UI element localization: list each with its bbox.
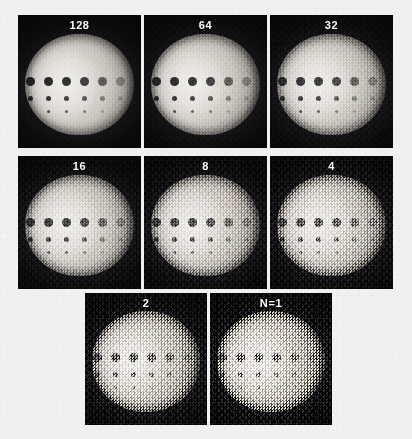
panel-label: 8	[144, 160, 267, 172]
lesion-spot	[280, 96, 285, 101]
lesion-row-small	[29, 110, 122, 113]
lesion-spot	[310, 372, 315, 377]
lesion-spot	[206, 77, 215, 86]
lesion-spot	[82, 96, 87, 101]
lesion-spot	[350, 77, 359, 86]
lesion-spot	[114, 386, 117, 389]
lesion-spot	[83, 110, 86, 113]
lesion-row-small	[155, 251, 248, 254]
lesion-spot	[368, 77, 377, 86]
lesion-spot	[242, 218, 251, 227]
lesion-spot	[353, 110, 356, 113]
lesion-spot	[155, 110, 158, 113]
lesion-grid	[270, 156, 393, 289]
panel-label: 4	[270, 160, 393, 172]
lesion-spot	[168, 386, 171, 389]
lesion-spot	[173, 251, 176, 254]
phantom-panel-64[interactable]: 64	[144, 15, 267, 148]
panel-row-3: 2 N=1	[85, 293, 332, 425]
lesion-spot	[152, 77, 161, 86]
lesion-spot	[242, 77, 251, 86]
lesion-spot	[64, 96, 69, 101]
lesion-spot	[350, 218, 359, 227]
lesion-row-medium	[280, 237, 375, 242]
lesion-spot	[244, 96, 249, 101]
lesion-spot	[206, 218, 215, 227]
lesion-spot	[290, 353, 299, 362]
lesion-spot	[298, 237, 303, 242]
lesion-spot	[116, 218, 125, 227]
lesion-spot	[170, 77, 179, 86]
lesion-spot	[172, 237, 177, 242]
lesion-spot	[316, 237, 321, 242]
lesion-spot	[353, 251, 356, 254]
lesion-row-medium	[154, 237, 249, 242]
lesion-spot	[167, 372, 172, 377]
lesion-spot	[317, 110, 320, 113]
lesion-spot	[226, 96, 231, 101]
lesion-spot	[46, 96, 51, 101]
lesion-spot	[311, 386, 314, 389]
lesion-spot	[44, 218, 53, 227]
lesion-spot	[227, 110, 230, 113]
panel-label: 64	[144, 19, 267, 31]
lesion-spot	[293, 386, 296, 389]
lesion-spot	[95, 372, 100, 377]
lesion-spot	[296, 77, 305, 86]
phantom-panel-4[interactable]: 4	[270, 156, 393, 289]
lesion-row-small	[155, 110, 248, 113]
phantom-panel-32[interactable]: 32	[270, 15, 393, 148]
phantom-panel-1[interactable]: N=1	[210, 293, 332, 425]
lesion-spot	[119, 251, 122, 254]
phantom-panel-8[interactable]: 8	[144, 156, 267, 289]
lesion-grid	[144, 15, 267, 148]
lesion-row-small	[29, 251, 122, 254]
phantom-panel-16[interactable]: 16	[18, 156, 141, 289]
lesion-spot	[98, 218, 107, 227]
lesion-spot	[101, 251, 104, 254]
lesion-spot	[239, 386, 242, 389]
lesion-row-large	[152, 77, 251, 86]
lesion-spot	[185, 372, 190, 377]
lesion-spot	[154, 96, 159, 101]
lesion-row-large	[218, 353, 317, 362]
lesion-spot	[129, 353, 138, 362]
lesion-spot	[272, 353, 281, 362]
lesion-spot	[299, 110, 302, 113]
lesion-spot	[188, 218, 197, 227]
panel-label: 32	[270, 19, 393, 31]
lesion-spot	[278, 77, 287, 86]
lesion-grid	[18, 156, 141, 289]
lesion-spot	[28, 96, 33, 101]
lesion-spot	[190, 96, 195, 101]
lesion-spot	[281, 251, 284, 254]
lesion-spot	[218, 353, 227, 362]
lesion-spot	[371, 251, 374, 254]
lesion-spot	[245, 251, 248, 254]
lesion-spot	[352, 96, 357, 101]
lesion-spot	[80, 77, 89, 86]
lesion-spot	[29, 251, 32, 254]
lesion-spot	[172, 96, 177, 101]
phantom-panel-2[interactable]: 2	[85, 293, 207, 425]
lesion-spot	[221, 386, 224, 389]
lesion-spot	[147, 353, 156, 362]
panel-row-1: 128 64 32	[18, 15, 393, 148]
lesion-spot	[98, 77, 107, 86]
phantom-panel-128[interactable]: 128	[18, 15, 141, 148]
lesion-spot	[220, 372, 225, 377]
lesion-spot	[281, 110, 284, 113]
lesion-spot	[332, 218, 341, 227]
lesion-spot	[238, 372, 243, 377]
lesion-spot	[296, 218, 305, 227]
lesion-spot	[191, 110, 194, 113]
lesion-spot	[165, 353, 174, 362]
lesion-spot	[116, 77, 125, 86]
lesion-spot	[254, 353, 263, 362]
lesion-spot	[224, 77, 233, 86]
lesion-spot	[292, 372, 297, 377]
lesion-spot	[46, 237, 51, 242]
lesion-spot	[335, 251, 338, 254]
lesion-spot	[370, 237, 375, 242]
lesion-row-medium	[28, 96, 123, 101]
